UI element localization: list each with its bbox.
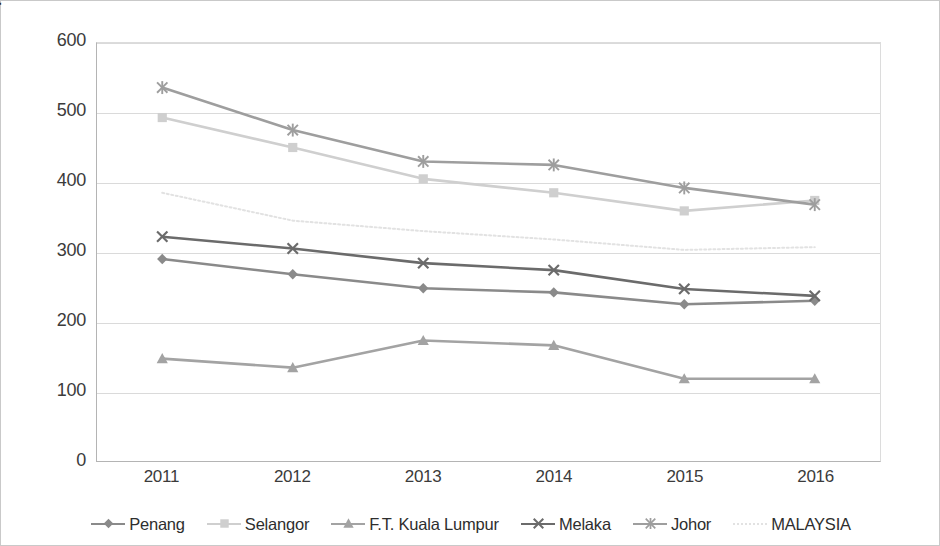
legend-marker-asterisk-icon xyxy=(645,518,656,529)
series-line xyxy=(162,193,815,250)
y-tick-label: 500 xyxy=(38,100,86,121)
series-malaysia xyxy=(162,193,815,250)
legend-item-melaka[interactable]: Melaka xyxy=(521,515,611,534)
legend-swatch-icon xyxy=(633,517,667,531)
data-point-marker xyxy=(344,518,354,527)
x-axis-tick-labels: 201120122013201420152016 xyxy=(96,467,881,493)
legend-label: MALAYSIA xyxy=(771,515,851,534)
legend-marker-x-icon xyxy=(533,518,544,529)
data-point-marker xyxy=(288,143,297,152)
legend-swatch-icon xyxy=(331,517,365,531)
series-penang xyxy=(157,254,820,310)
data-point-marker xyxy=(680,206,689,215)
x-tick-label: 2011 xyxy=(116,467,206,487)
y-tick-label: 300 xyxy=(38,240,86,261)
series-line xyxy=(162,340,815,378)
legend-item-penang[interactable]: Penang xyxy=(91,515,185,534)
chart-frame: Ratio of Nurses to Population (1:x) 0100… xyxy=(0,0,940,546)
y-tick-label: 600 xyxy=(38,30,86,51)
legend-marker-square-icon xyxy=(219,518,230,529)
legend-item-f-t-kuala-lumpur[interactable]: F.T. Kuala Lumpur xyxy=(331,515,499,534)
legend-label: F.T. Kuala Lumpur xyxy=(369,515,499,534)
y-tick-label: 200 xyxy=(38,310,86,331)
x-tick-label: 2013 xyxy=(378,467,468,487)
data-point-marker xyxy=(104,519,114,529)
legend-swatch-icon xyxy=(91,517,125,531)
series-lines-svg xyxy=(97,43,880,461)
data-point-marker xyxy=(549,188,558,197)
y-tick-label: 100 xyxy=(38,380,86,401)
legend-item-johor[interactable]: Johor xyxy=(633,515,711,534)
chart-legend: PenangSelangorF.T. Kuala LumpurMelakaJoh… xyxy=(1,509,940,539)
data-point-marker xyxy=(419,174,428,183)
series-johor xyxy=(157,81,820,211)
series-f-t-kuala-lumpur xyxy=(157,335,821,383)
x-tick-label: 2015 xyxy=(640,467,730,487)
legend-marker-triangle-icon xyxy=(343,518,354,529)
legend-label: Melaka xyxy=(559,515,611,534)
x-tick-label: 2012 xyxy=(247,467,337,487)
data-point-marker xyxy=(158,113,167,122)
y-axis-title: Ratio of Nurses to Population (1:x) xyxy=(0,0,1,151)
data-point-marker xyxy=(157,254,167,264)
legend-label: Johor xyxy=(671,515,711,534)
y-axis-tick-labels: 0100200300400500600 xyxy=(31,42,86,462)
data-point-marker xyxy=(549,287,559,297)
legend-label: Selangor xyxy=(245,515,309,534)
data-point-marker xyxy=(288,269,298,279)
data-point-marker xyxy=(534,519,544,529)
legend-item-selangor[interactable]: Selangor xyxy=(207,515,309,534)
legend-swatch-icon xyxy=(207,517,241,531)
data-point-marker xyxy=(679,299,689,309)
series-line xyxy=(162,237,815,296)
data-point-marker xyxy=(418,283,428,293)
legend-item-malaysia[interactable]: MALAYSIA xyxy=(733,515,851,534)
x-tick-label: 2016 xyxy=(771,467,861,487)
y-tick-label: 0 xyxy=(38,450,86,471)
data-point-marker xyxy=(220,519,228,527)
plot-area xyxy=(96,42,881,462)
x-tick-label: 2014 xyxy=(509,467,599,487)
legend-marker-diamond-icon xyxy=(103,518,114,529)
y-tick-label: 400 xyxy=(38,170,86,191)
legend-swatch-icon xyxy=(733,517,767,531)
data-point-marker xyxy=(646,518,656,529)
legend-label: Penang xyxy=(129,515,185,534)
legend-swatch-icon xyxy=(521,517,555,531)
